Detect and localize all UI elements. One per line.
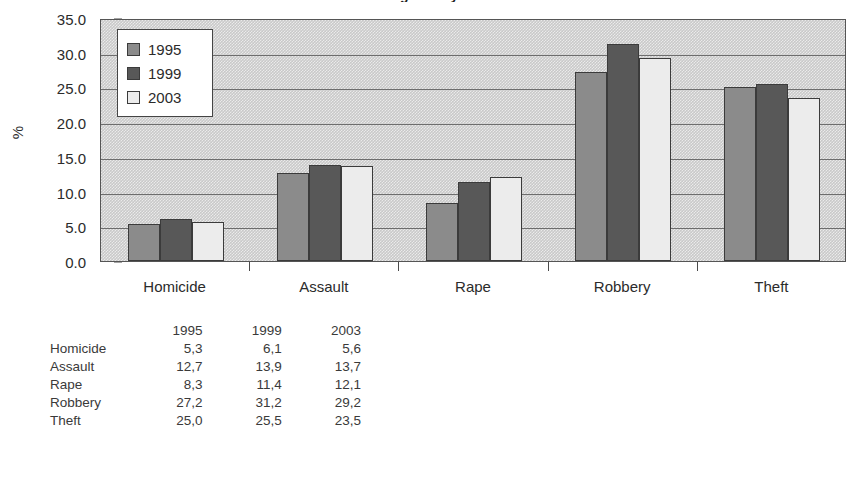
bar-robbery-1995: [575, 72, 607, 261]
values-table: 199519992003 Homicide5,36,15,6Assault12,…: [48, 322, 378, 430]
table-row: Robbery27,231,229,2: [48, 394, 378, 412]
table-row: Rape8,311,412,1: [48, 376, 378, 394]
bar-rape-1999: [458, 182, 490, 261]
table-cell-theft-2003: 23,5: [299, 412, 378, 430]
table-row-label: Theft: [48, 412, 140, 430]
legend-swatch-1995: [127, 43, 140, 56]
bar-theft-1999: [756, 84, 788, 261]
legend-label-1999: 1999: [148, 66, 181, 81]
table-row-label: Assault: [48, 358, 140, 376]
y-axis-tick-20.0: 20.0: [57, 116, 86, 131]
table-row-label: Homicide: [48, 340, 140, 358]
bar-homicide-1995: [128, 224, 160, 261]
table-cell-assault-2003: 13,7: [299, 358, 378, 376]
table-header-1995: 1995: [140, 322, 219, 340]
x-axis-tick-mark: [398, 262, 399, 271]
bar-chart-figure: % 0.05.010.015.020.025.030.035.0 Homicid…: [0, 0, 860, 300]
table-header-1999: 1999: [220, 322, 299, 340]
bar-robbery-2003: [639, 58, 671, 261]
y-axis-tick-30.0: 30.0: [57, 46, 86, 61]
table-cell-robbery-2003: 29,2: [299, 394, 378, 412]
table-cell-homicide-1999: 6,1: [220, 340, 299, 358]
x-axis-tick-mark: [249, 262, 250, 271]
bar-group-robbery: [549, 20, 698, 261]
table-cell-robbery-1995: 27,2: [140, 394, 219, 412]
table-cell-homicide-1995: 5,3: [140, 340, 219, 358]
y-axis-tick-25.0: 25.0: [57, 81, 86, 96]
bar-rape-2003: [490, 177, 522, 261]
bar-group-rape: [399, 20, 548, 261]
table-cell-rape-1999: 11,4: [220, 376, 299, 394]
chart-legend: 199519992003: [117, 29, 213, 117]
y-axis-tick-0.0: 0.0: [65, 255, 86, 270]
x-axis-label-assault: Assault: [299, 278, 348, 295]
table-body: Homicide5,36,15,6Assault12,713,913,7Rape…: [48, 340, 378, 430]
legend-label-1995: 1995: [148, 42, 181, 57]
x-axis: HomicideAssaultRapeRobberyTheft: [100, 262, 846, 302]
legend-item-2003: 2003: [127, 85, 204, 109]
bar-group-assault: [250, 20, 399, 261]
y-axis-tick-labels: 0.05.010.015.020.025.030.035.0: [22, 19, 92, 262]
x-axis-label-homicide: Homicide: [143, 278, 206, 295]
bar-assault-1995: [277, 173, 309, 261]
table-row-label: Rape: [48, 376, 140, 394]
bar-group-theft: [698, 20, 846, 261]
table-cell-homicide-2003: 5,6: [299, 340, 378, 358]
table-header-2003: 2003: [299, 322, 378, 340]
bar-assault-2003: [341, 166, 373, 261]
legend-swatch-1999: [127, 67, 140, 80]
x-axis-tick-mark: [697, 262, 698, 271]
legend-item-1999: 1999: [127, 61, 204, 85]
x-axis-label-theft: Theft: [754, 278, 788, 295]
bar-homicide-2003: [192, 222, 224, 261]
x-axis-label-robbery: Robbery: [594, 278, 651, 295]
table-header-row: 199519992003: [48, 322, 378, 340]
table-cell-assault-1995: 12,7: [140, 358, 219, 376]
bar-robbery-1999: [607, 44, 639, 261]
bar-homicide-1999: [160, 219, 192, 261]
table-cell-theft-1999: 25,5: [220, 412, 299, 430]
y-axis-tick-10.0: 10.0: [57, 185, 86, 200]
table-cell-theft-1995: 25,0: [140, 412, 219, 430]
y-axis-tick-35.0: 35.0: [57, 12, 86, 27]
bar-theft-2003: [788, 98, 820, 261]
y-axis-tick-15.0: 15.0: [57, 150, 86, 165]
table-corner-cell: [48, 322, 140, 340]
legend-item-1995: 1995: [127, 37, 204, 61]
table-cell-assault-1999: 13,9: [220, 358, 299, 376]
table-row: Assault12,713,913,7: [48, 358, 378, 376]
table-cell-robbery-1999: 31,2: [220, 394, 299, 412]
bar-theft-1995: [724, 87, 756, 261]
table-cell-rape-1995: 8,3: [140, 376, 219, 394]
y-axis-tick-5.0: 5.0: [65, 220, 86, 235]
table-row: Homicide5,36,15,6: [48, 340, 378, 358]
x-axis-tick-mark: [548, 262, 549, 271]
legend-label-2003: 2003: [148, 90, 181, 105]
table-cell-rape-2003: 12,1: [299, 376, 378, 394]
bar-assault-1999: [309, 165, 341, 262]
legend-swatch-2003: [127, 91, 140, 104]
table-row-label: Robbery: [48, 394, 140, 412]
bar-rape-1995: [426, 203, 458, 261]
x-axis-label-rape: Rape: [455, 278, 491, 295]
table-row: Theft25,025,523,5: [48, 412, 378, 430]
data-table: 199519992003 Homicide5,36,15,6Assault12,…: [48, 322, 378, 430]
